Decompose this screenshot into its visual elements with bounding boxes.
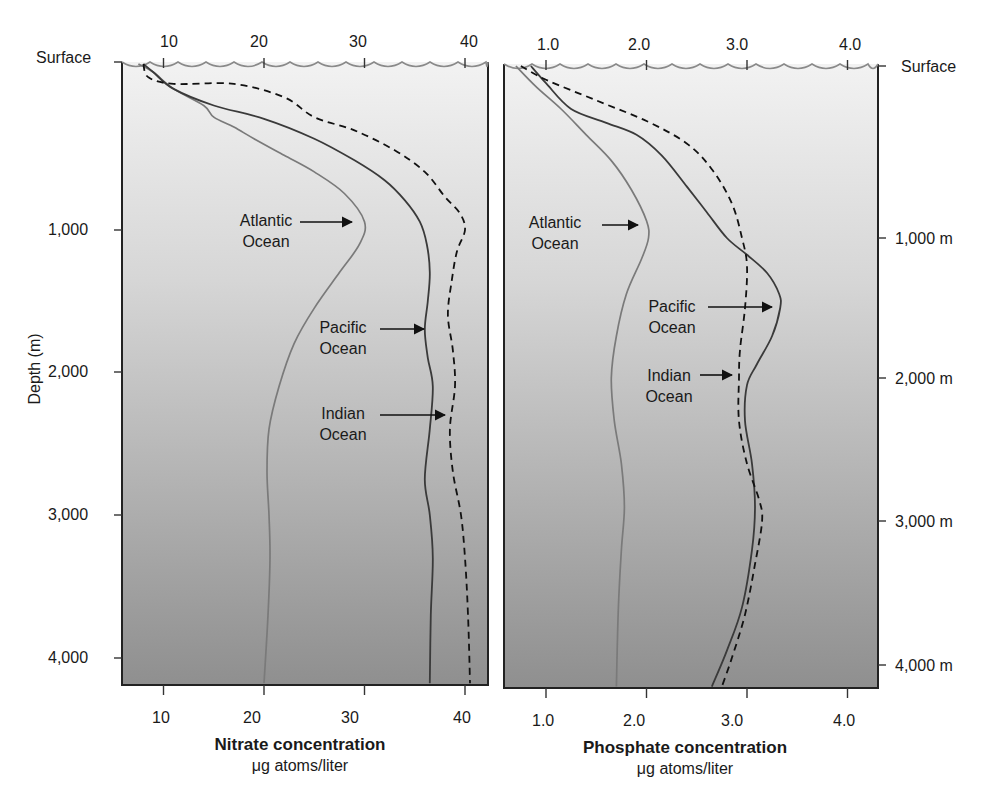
- label-line: Ocean: [235, 231, 297, 252]
- label-line: Ocean: [312, 338, 374, 359]
- left-depth-tick-4000: 4,000: [48, 649, 88, 667]
- nitrate-plot-area: [122, 62, 488, 685]
- nitrate-atlantic-label: Atlantic Ocean: [235, 210, 297, 252]
- right-depth-tick-3000: 3,000 m: [895, 513, 953, 531]
- phosphate-indian-label: Indian Ocean: [638, 365, 700, 407]
- right-depth-tick-surface: Surface: [901, 58, 956, 76]
- nitrate-axis-unit: μg atoms/liter: [190, 757, 410, 775]
- label-line: Indian: [638, 365, 700, 386]
- nitrate-top-tick-20: 20: [250, 33, 268, 51]
- phosphate-bottom-tick-3: 3.0: [721, 712, 743, 730]
- label-line: Ocean: [312, 424, 374, 445]
- plot-canvas: [0, 0, 999, 792]
- phosphate-bottom-tick-4: 4.0: [833, 712, 855, 730]
- phosphate-bottom-tick-1: 1.0: [532, 712, 554, 730]
- right-depth-tick-4000: 4,000 m: [895, 657, 953, 675]
- phosphate-top-tick-4: 4.0: [839, 36, 861, 54]
- label-line: Indian: [312, 403, 374, 424]
- phosphate-pacific-label: Pacific Ocean: [641, 296, 703, 338]
- nitrate-bottom-tick-10: 10: [152, 709, 170, 727]
- phosphate-axis-unit: μg atoms/liter: [555, 760, 815, 778]
- left-depth-tick-3000: 3,000: [48, 506, 88, 524]
- y-axis-label: Depth (m): [26, 324, 44, 414]
- ocean-nutrient-profiles-figure: Surface 1,000 2,000 3,000 4,000 Depth (m…: [0, 0, 999, 792]
- right-depth-tick-1000: 1,000 m: [895, 230, 953, 248]
- left-depth-tick-surface: Surface: [36, 49, 91, 67]
- label-line: Atlantic: [524, 212, 586, 233]
- phosphate-top-tick-2: 2.0: [628, 36, 650, 54]
- phosphate-bottom-tick-2: 2.0: [623, 712, 645, 730]
- right-depth-tick-2000: 2,000 m: [895, 370, 953, 388]
- label-line: Ocean: [641, 317, 703, 338]
- phosphate-atlantic-label: Atlantic Ocean: [524, 212, 586, 254]
- label-line: Pacific: [641, 296, 703, 317]
- phosphate-axis-title: Phosphate concentration: [555, 738, 815, 758]
- label-line: Ocean: [524, 233, 586, 254]
- left-depth-tick-2000: 2,000: [48, 363, 88, 381]
- label-line: Atlantic: [235, 210, 297, 231]
- nitrate-panel: [114, 58, 488, 695]
- label-line: Ocean: [638, 386, 700, 407]
- nitrate-bottom-tick-40: 40: [453, 709, 471, 727]
- phosphate-top-tick-1: 1.0: [537, 36, 559, 54]
- nitrate-axis-title: Nitrate concentration: [190, 735, 410, 755]
- nitrate-bottom-tick-20: 20: [243, 709, 261, 727]
- phosphate-top-tick-3: 3.0: [726, 36, 748, 54]
- nitrate-pacific-label: Pacific Ocean: [312, 317, 374, 359]
- nitrate-bottom-tick-30: 30: [341, 709, 359, 727]
- nitrate-indian-label: Indian Ocean: [312, 403, 374, 445]
- nitrate-top-tick-40: 40: [460, 33, 478, 51]
- nitrate-top-tick-30: 30: [349, 33, 367, 51]
- label-line: Pacific: [312, 317, 374, 338]
- left-depth-tick-1000: 1,000: [48, 221, 88, 239]
- nitrate-top-tick-10: 10: [160, 33, 178, 51]
